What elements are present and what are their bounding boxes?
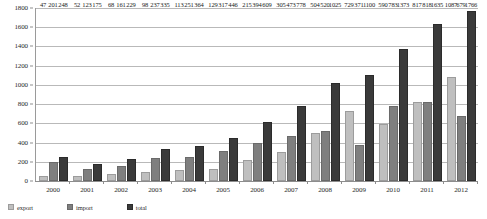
bar-total[interactable]: 778	[297, 8, 306, 181]
bar-rect[interactable]: 818	[423, 102, 432, 181]
bar-rect[interactable]: 123	[83, 169, 92, 181]
bar-import[interactable]: 371	[355, 8, 364, 181]
bar-export[interactable]: 305	[277, 8, 286, 181]
bar-rect[interactable]: 446	[229, 138, 238, 181]
bar-rect[interactable]: 679	[457, 116, 466, 181]
bar-export[interactable]: 504	[311, 8, 320, 181]
bar-export[interactable]: 52	[73, 8, 82, 181]
chart-legend: exportimporttotal	[0, 200, 487, 214]
legend-swatch-icon	[127, 204, 133, 210]
bar-rect[interactable]: 371	[355, 145, 364, 181]
bar-export[interactable]: 1087	[447, 8, 456, 181]
bar-rect[interactable]: 229	[127, 159, 136, 181]
bar-rect[interactable]: 305	[277, 152, 286, 181]
bar-import[interactable]: 818	[423, 8, 432, 181]
bar-group: 98237335	[138, 8, 172, 181]
bar-export[interactable]: 47	[39, 8, 48, 181]
bar-rect[interactable]: 215	[243, 160, 252, 181]
bar-import[interactable]: 201	[49, 8, 58, 181]
bar-export[interactable]: 215	[243, 8, 252, 181]
bar-rect[interactable]: 201	[49, 162, 58, 181]
bar-rect[interactable]: 98	[141, 172, 150, 181]
bar-export[interactable]: 729	[345, 8, 354, 181]
bar-export[interactable]: 113	[175, 8, 184, 181]
bar-import[interactable]: 394	[253, 8, 262, 181]
bar-rect[interactable]: 1635	[433, 24, 442, 181]
bar-import[interactable]: 679	[457, 8, 466, 181]
bar-import[interactable]: 473	[287, 8, 296, 181]
bar-total[interactable]: 1635	[433, 8, 442, 181]
y-axis-tick	[30, 123, 33, 124]
bar-rect[interactable]: 609	[263, 122, 272, 181]
bar-import[interactable]: 161	[117, 8, 126, 181]
bar-rect[interactable]: 783	[389, 106, 398, 181]
bar-export[interactable]: 817	[413, 8, 422, 181]
bar-total[interactable]: 175	[93, 8, 102, 181]
bar-value-label: 1766	[465, 1, 477, 8]
bar-rect[interactable]: 504	[311, 133, 320, 181]
legend-item-export[interactable]: export	[8, 204, 33, 211]
x-axis-tick-label: 2005	[206, 185, 240, 197]
bar-total[interactable]: 229	[127, 8, 136, 181]
legend-item-import[interactable]: import	[67, 204, 93, 211]
y-axis-tick	[30, 181, 33, 182]
bar-rect[interactable]: 1087	[447, 77, 456, 181]
bar-rect[interactable]: 473	[287, 136, 296, 181]
bar-rect[interactable]: 729	[345, 111, 354, 181]
bar-rect[interactable]: 129	[209, 169, 218, 181]
bar-total[interactable]: 364	[195, 8, 204, 181]
bar-total[interactable]: 1100	[365, 8, 374, 181]
bar-group: 215394609	[240, 8, 274, 181]
bar-rect[interactable]: 113	[175, 170, 184, 181]
y-axis-tick-label: 1200	[14, 62, 28, 69]
y-axis-tick	[30, 27, 33, 28]
bar-rect[interactable]: 161	[117, 166, 126, 181]
bar-total[interactable]: 1025	[331, 8, 340, 181]
bar-total[interactable]: 1766	[467, 8, 476, 181]
legend-item-total[interactable]: total	[127, 204, 147, 211]
bar-rect[interactable]: 364	[195, 146, 204, 181]
bar-rect[interactable]: 778	[297, 106, 306, 181]
bar-rect[interactable]: 248	[59, 157, 68, 181]
bar-total[interactable]: 609	[263, 8, 272, 181]
bar-export[interactable]: 590	[379, 8, 388, 181]
bar-rect[interactable]: 175	[93, 164, 102, 181]
bar-rect[interactable]: 251	[185, 157, 194, 181]
bar-import[interactable]: 123	[83, 8, 92, 181]
x-axis-tick	[444, 181, 478, 184]
bar-import[interactable]: 317	[219, 8, 228, 181]
bar-rect[interactable]: 590	[379, 124, 388, 181]
bar-rect[interactable]: 394	[253, 143, 262, 181]
bar-export[interactable]: 129	[209, 8, 218, 181]
y-axis-tick-label: 600	[18, 120, 28, 127]
bar-import[interactable]: 251	[185, 8, 194, 181]
bar-rect[interactable]: 1100	[365, 75, 374, 181]
bar-export[interactable]: 68	[107, 8, 116, 181]
bar-value-label: 98	[142, 1, 148, 8]
bar-value-label: 609	[262, 1, 271, 8]
bar-import[interactable]: 783	[389, 8, 398, 181]
y-axis-tick	[30, 84, 33, 85]
bar-rect[interactable]: 335	[161, 149, 170, 181]
bar-rect[interactable]: 237	[151, 158, 160, 181]
bar-group: 5045201025	[308, 8, 342, 181]
y-axis-tick-label: 1600	[14, 24, 28, 31]
bar-total[interactable]: 335	[161, 8, 170, 181]
bar-import[interactable]: 237	[151, 8, 160, 181]
bar-group: 68161229	[104, 8, 138, 181]
bar-group: 52123175	[70, 8, 104, 181]
bar-total[interactable]: 248	[59, 8, 68, 181]
bar-rect[interactable]: 1373	[399, 49, 408, 181]
bar-rect[interactable]: 317	[219, 151, 228, 181]
bar-group: 129317446	[206, 8, 240, 181]
bar-export[interactable]: 98	[141, 8, 150, 181]
bar-rect[interactable]: 520	[321, 131, 330, 181]
bar-rect[interactable]: 817	[413, 102, 422, 181]
bar-value-label: 47	[40, 1, 46, 8]
bar-rect[interactable]: 1766	[467, 11, 476, 181]
bar-total[interactable]: 1373	[399, 8, 408, 181]
bar-total[interactable]: 446	[229, 8, 238, 181]
bar-import[interactable]: 520	[321, 8, 330, 181]
bar-rect[interactable]: 1025	[331, 83, 340, 182]
x-axis-tick	[206, 181, 240, 184]
